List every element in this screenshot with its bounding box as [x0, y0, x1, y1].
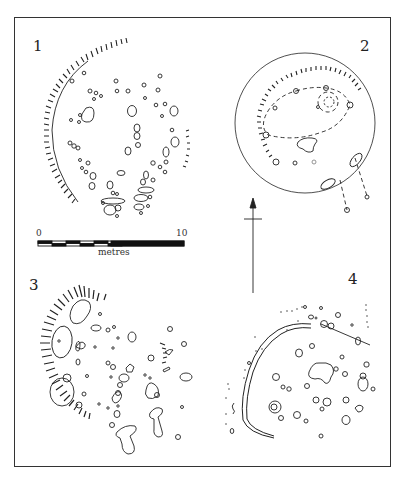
plan-1-postholes — [68, 71, 179, 217]
plan-2-dashed-outline — [263, 87, 367, 210]
plans-drawing — [0, 0, 403, 482]
plan-2-enclosure — [235, 53, 375, 193]
plan-3 — [40, 285, 192, 454]
north-arrow — [244, 198, 262, 293]
plan-2 — [235, 53, 375, 213]
plan-2-tick-arc — [257, 66, 361, 157]
scale-bar — [38, 241, 184, 246]
plan-4 — [225, 304, 375, 438]
plan-3-tick-arc — [40, 285, 106, 419]
plan-1 — [44, 38, 190, 218]
